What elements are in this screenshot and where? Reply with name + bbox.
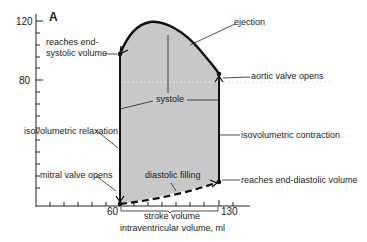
x-tick-60: 60 [107, 206, 118, 217]
label-x-axis: intraventricular volume, ml [120, 223, 225, 234]
label-reaches-end-diastolic: reaches end-diastolic volume [241, 175, 358, 186]
point-mitral-valve [118, 202, 123, 207]
label-reaches-end-systolic-line1: reaches end- [46, 37, 99, 48]
x-axis-ticks [50, 200, 233, 206]
label-aortic-valve-opens: aortic valve opens [251, 71, 324, 82]
panel-label: A [49, 10, 58, 24]
y-tick-120: 120 [16, 16, 33, 27]
label-systole: systole [156, 94, 184, 105]
point-end-systolic [118, 52, 123, 57]
label-isovolumetric-relaxation: isovolumetric relaxation [24, 126, 118, 137]
point-aortic-valve [217, 72, 222, 77]
label-stroke-volume: stroke volume [144, 211, 200, 222]
y-axis-ticks [36, 21, 43, 188]
label-ejection: ejection [234, 17, 265, 28]
label-diastolic-filling: diastolic filling [145, 170, 201, 181]
point-end-diastolic [217, 180, 222, 185]
label-mitral-valve-opens: mitral valve opens [40, 170, 113, 181]
label-isovolumetric-contraction: isovolumetric contraction [241, 130, 340, 141]
label-reaches-end-systolic-line2: systolic volume [46, 48, 107, 59]
y-tick-80: 80 [19, 75, 30, 86]
x-tick-130: 130 [221, 206, 238, 217]
